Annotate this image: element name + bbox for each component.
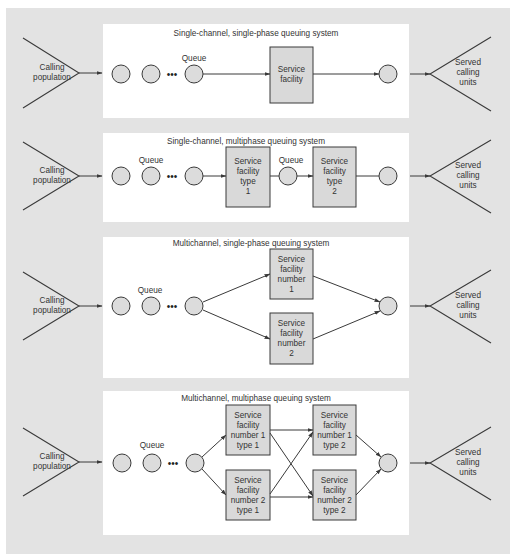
box-label-line: 1 (289, 285, 294, 294)
queue-unit-circle (142, 65, 160, 83)
queue-unit-circle (186, 454, 204, 472)
box-label-line: facility (280, 75, 304, 84)
panel-title: Multichannel, multiphase queuing system (181, 394, 331, 403)
source-label-line: Calling (39, 63, 64, 72)
box-label-line: Service (321, 411, 349, 420)
box-label-line: number 1 (317, 431, 352, 440)
sink-label-line: Served (455, 58, 481, 67)
sink-label-line: Served (455, 291, 481, 300)
ellipsis-dots: ••• (168, 458, 179, 469)
box-label-line: number (278, 339, 306, 348)
box-label-line: facility (280, 329, 304, 338)
box-label-line: type 2 (323, 506, 346, 515)
ellipsis-dots: ••• (167, 171, 178, 182)
queue-label: Queue (138, 286, 163, 295)
queue-label: Queue (182, 54, 207, 63)
box-label-line: facility (323, 486, 347, 495)
served-unit-circle (379, 297, 397, 315)
box-label-line: Service (234, 411, 262, 420)
queue-unit-circle (279, 167, 297, 185)
box-label-line: Service (234, 476, 262, 485)
box-label-line: number 2 (317, 496, 352, 505)
source-label-line: Calling (39, 452, 64, 461)
queue-unit-circle (113, 454, 131, 472)
box-label-line: facility (280, 265, 304, 274)
panel-title: Multichannel, single-phase queuing syste… (173, 239, 330, 248)
queue-unit-circle (185, 297, 203, 315)
source-label-line: Calling (39, 296, 64, 305)
box-label-line: Service (278, 255, 306, 264)
sink-label-line: calling (456, 301, 480, 310)
box-label-line: 2 (289, 349, 294, 358)
box-label-line: type 1 (237, 441, 260, 450)
sink-label-line: Served (455, 448, 481, 457)
queue-unit-circle (185, 65, 203, 83)
queue-unit-circle (185, 167, 203, 185)
queuing-systems-diagram: Single-channel, single-phase queuing sys… (0, 0, 520, 556)
queue-label: Queue (279, 156, 304, 165)
served-unit-circle (379, 167, 397, 185)
panel-title: Single-channel, multiphase queuing syste… (167, 137, 325, 146)
box-label-line: type 1 (237, 506, 260, 515)
box-label-line: Service (321, 476, 349, 485)
source-label-line: population (33, 176, 71, 185)
box-label-line: 2 (332, 187, 337, 196)
queue-label: Queue (139, 156, 164, 165)
source-label-line: population (33, 462, 71, 471)
queue-unit-circle (142, 297, 160, 315)
box-label-line: type (327, 177, 343, 186)
sink-label-line: calling (456, 68, 480, 77)
box-label-line: number (278, 275, 306, 284)
box-label-line: 1 (246, 187, 251, 196)
sink-label-line: Served (455, 161, 481, 170)
sink-label-line: units (459, 78, 476, 87)
box-label-line: Service (278, 65, 306, 74)
box-label-line: Service (278, 319, 306, 328)
sink-label-line: calling (456, 458, 480, 467)
sink-label-line: units (459, 311, 476, 320)
source-label-line: population (33, 306, 71, 315)
panel-title: Single-channel, single-phase queuing sys… (174, 29, 339, 38)
sink-label-line: units (459, 468, 476, 477)
queue-unit-circle (143, 454, 161, 472)
ellipsis-dots: ••• (167, 301, 178, 312)
queue-unit-circle (142, 167, 160, 185)
box-label-line: facility (237, 486, 261, 495)
box-label-line: number 1 (231, 431, 266, 440)
box-label-line: number 2 (231, 496, 266, 505)
sink-label-line: units (459, 181, 476, 190)
box-label-line: type (240, 177, 256, 186)
served-unit-circle (379, 454, 397, 472)
queue-label: Queue (140, 441, 165, 450)
ellipsis-dots: ••• (167, 69, 178, 80)
box-label-line: Service (321, 157, 349, 166)
source-label-line: population (33, 73, 71, 82)
box-label-line: type 2 (323, 441, 346, 450)
queue-unit-circle (112, 65, 130, 83)
source-label-line: Calling (39, 166, 64, 175)
queue-unit-circle (112, 167, 130, 185)
box-label-line: facility (237, 167, 261, 176)
sink-label-line: calling (456, 171, 480, 180)
queue-unit-circle (112, 297, 130, 315)
box-label-line: facility (323, 167, 347, 176)
box-label-line: facility (237, 421, 261, 430)
served-unit-circle (379, 65, 397, 83)
box-label-line: facility (323, 421, 347, 430)
box-label-line: Service (234, 157, 262, 166)
